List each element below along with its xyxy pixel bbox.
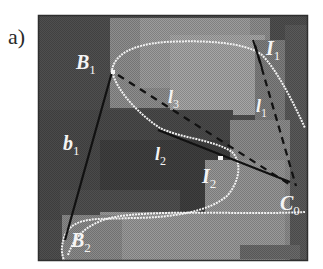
figure-canvas: B1 B2 I1 I2 C0 b1 l1 l2 l3 — [0, 0, 323, 269]
I2-marker — [218, 156, 223, 160]
B1-marker — [111, 70, 115, 74]
